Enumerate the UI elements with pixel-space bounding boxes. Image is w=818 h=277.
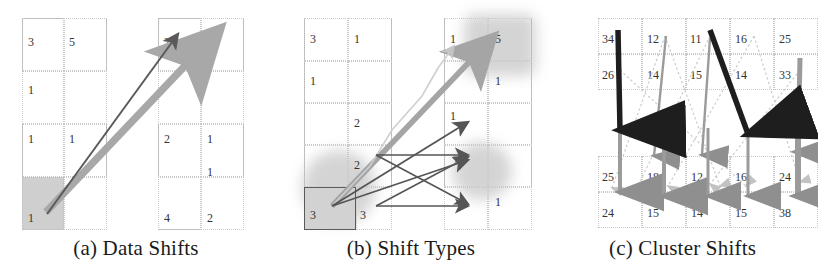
- panel-c-thick-black-cluster-arrow-1: [618, 30, 620, 130]
- panel-c-faint-dotted-arrow-4: [754, 36, 800, 182]
- panel-c-thick-black-cluster-arrow-2: [710, 30, 748, 134]
- panel-c-faint-dotted-arrow-7: [710, 70, 800, 184]
- panel-c-faint-dotted-arrow-2: [665, 36, 720, 186]
- panel-c-faint-dotted-arrow-6: [620, 70, 746, 186]
- panel-b-arrows: [272, 0, 550, 250]
- panel-shift-types: 3 1 1 2 2 3 3 1 5 1 1: [272, 0, 550, 277]
- panel-c-arrows: [550, 0, 815, 250]
- panel-a-arrows: [0, 0, 272, 250]
- panel-b-caption: (b) Shift Types: [272, 236, 550, 261]
- panel-a-dark-shift-arrow: [47, 34, 178, 214]
- panel-b-dark-crossing-arrow-a: [376, 155, 468, 204]
- panel-cluster-shifts: 34 12 26 14 11 16 25 15 14 33 25 18: [550, 0, 815, 277]
- panel-a-caption: (a) Data Shifts: [0, 236, 272, 261]
- panel-a-gray-shift-arrow: [46, 30, 219, 212]
- panel-c-faint-dotted-arrow-5: [638, 36, 710, 186]
- panel-b-faint-squiggle-arrow: [332, 46, 454, 206]
- panel-data-shifts: 3 5 1 1 1 1 2 3 2 1 1 4 2: [0, 0, 272, 277]
- panel-b-dark-crossing-arrow-b: [376, 157, 468, 206]
- panel-c-caption: (c) Cluster Shifts: [550, 236, 815, 261]
